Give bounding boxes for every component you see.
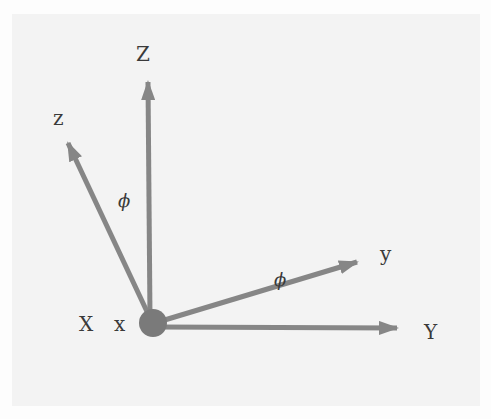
label-Y: Y [424,322,437,342]
axis-Z [148,82,150,318]
label-y-rotated: y [380,244,391,264]
label-Z: Z [136,44,150,64]
label-phi-z: ϕ [118,192,130,210]
axes-diagram [0,0,491,419]
axis-Y [158,327,397,328]
label-x-rotated: x [114,314,125,334]
label-z-rotated: z [53,108,64,128]
label-X: X [79,314,93,334]
label-phi-y: ϕ [274,271,286,289]
axis-y-rotated [158,262,357,322]
origin-dot [139,309,167,337]
axis-z-rotated [68,143,150,318]
